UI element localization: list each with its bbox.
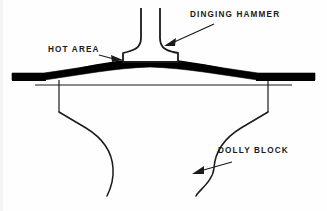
label-dolly-block: DOLLY BLOCK [218,147,289,155]
dolly-block-leader-line [200,162,232,171]
dolly-block-left-profile [59,112,113,196]
hammer-profile [123,8,178,62]
dinging-hammer-dolly-block-diagram [0,0,327,211]
dinging-hammer [123,8,178,62]
metal-panel-right-flat [256,73,315,81]
dolly-block-arrowhead [192,166,204,174]
label-hot-area: HOT AREA [48,46,100,54]
dinging-hammer-arrowhead [164,38,176,46]
dolly-block [35,80,292,196]
label-dinging-hammer: DINGING HAMMER [190,11,280,19]
annotation-leaders [99,24,232,174]
metal-panel-left-flat [12,73,46,81]
diagram-page: DINGING HAMMER HOT AREA DOLLY BLOCK [0,0,327,211]
dinging-hammer-leader-line [172,24,214,43]
